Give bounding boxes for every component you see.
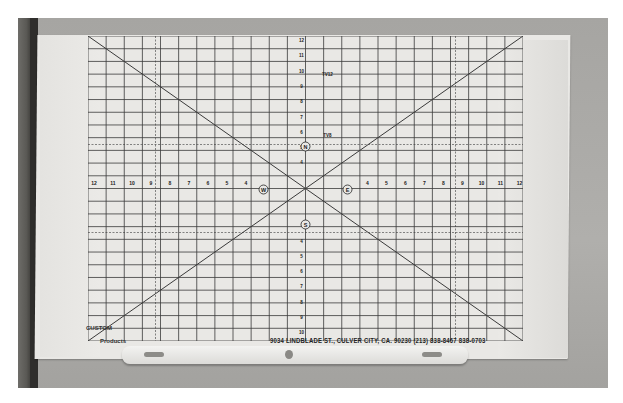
scale-label-west-4: 4: [245, 180, 248, 186]
scale-label-west-7: 7: [188, 180, 191, 186]
scale-label-east-10: 10: [479, 180, 485, 186]
scale-label-north-10: 10: [299, 69, 305, 74]
tv12-mark: TV12: [322, 72, 333, 77]
handle-label-plate: [357, 350, 397, 360]
scale-label-east-5: 5: [385, 180, 388, 186]
scale-label-south-10: 10: [299, 330, 305, 335]
scale-label-east-11: 11: [498, 180, 504, 186]
handle-knob: [285, 350, 293, 359]
scale-label-west-10: 10: [129, 180, 135, 186]
scale-label-south-8: 8: [300, 300, 303, 305]
alignment-grid: 1211109876544567891011121211109876544567…: [88, 36, 523, 341]
scale-label-south-7: 7: [300, 284, 303, 289]
scale-label-west-5: 5: [226, 180, 229, 186]
scale-label-north-12: 12: [299, 38, 305, 43]
scale-label-south-6: 6: [300, 269, 303, 274]
manufacturer-address: 9034 LINDBLADE ST., CULVER CITY, CA. 902…: [270, 337, 485, 344]
tv8-mark: TV8: [323, 133, 332, 138]
scale-label-south-5: 5: [300, 254, 303, 259]
logo-text: CUSTOM: [86, 325, 134, 332]
scale-label-north-9: 9: [300, 84, 303, 89]
handle-slot-right: [422, 352, 442, 357]
handle-slot-left: [144, 352, 164, 357]
compass-south-marker-label: S: [304, 222, 308, 228]
brand-logo: CUSTOM Products: [86, 325, 134, 347]
scale-label-west-11: 11: [110, 180, 116, 186]
compass-north-marker-label: N: [304, 144, 308, 150]
compass-west-marker-label: W: [261, 187, 267, 193]
logo-subtext: Products: [100, 338, 134, 345]
scale-label-east-6: 6: [404, 180, 407, 186]
scale-label-east-8: 8: [442, 180, 445, 186]
scale-label-west-6: 6: [207, 180, 210, 186]
scale-label-east-9: 9: [461, 180, 464, 186]
grid-lines: 1211109876544567891011121211109876544567…: [88, 36, 523, 341]
carry-handle: [122, 346, 468, 364]
compass-east-marker-label: E: [346, 187, 350, 193]
scale-label-north-6: 6: [300, 130, 303, 135]
scale-label-west-8: 8: [169, 180, 172, 186]
scale-label-north-7: 7: [300, 115, 303, 120]
scale-label-west-9: 9: [150, 180, 153, 186]
scale-label-north-8: 8: [300, 99, 303, 104]
scale-label-east-12: 12: [517, 180, 523, 186]
scale-label-west-12: 12: [91, 180, 97, 186]
scale-label-north-11: 11: [299, 53, 304, 58]
scale-label-east-7: 7: [423, 180, 426, 186]
scale-label-east-4: 4: [366, 180, 369, 186]
